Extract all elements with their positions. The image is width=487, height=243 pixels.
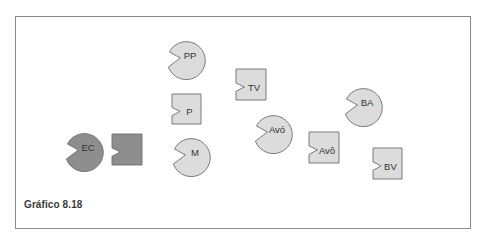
node-label: BV: [384, 161, 397, 172]
node-p: P: [172, 94, 201, 124]
node-label: P: [186, 106, 192, 117]
node-label: EC: [81, 142, 94, 153]
notched-square-icon: [112, 134, 142, 165]
node-m: M: [173, 139, 210, 177]
node-label: M: [191, 147, 199, 158]
nodes-layer: ECPPPMTVAvóAvôBABV: [66, 42, 402, 179]
node-avo-square: Avô: [309, 132, 339, 163]
node-label: BA: [361, 97, 374, 108]
node-ba: BA: [345, 89, 382, 127]
node-label: PP: [184, 50, 197, 61]
figure-caption: Gráfico 8.18: [24, 199, 82, 210]
node-pp: PP: [168, 42, 205, 80]
node-bv: BV: [373, 148, 402, 179]
node-label: Avô: [319, 145, 335, 156]
node-ec-square: [112, 134, 142, 165]
node-label: Avó: [269, 124, 285, 135]
node-avo-circle: Avó: [255, 116, 292, 154]
node-ec: EC: [66, 134, 103, 172]
node-label: TV: [248, 82, 261, 93]
node-tv: TV: [236, 69, 266, 100]
